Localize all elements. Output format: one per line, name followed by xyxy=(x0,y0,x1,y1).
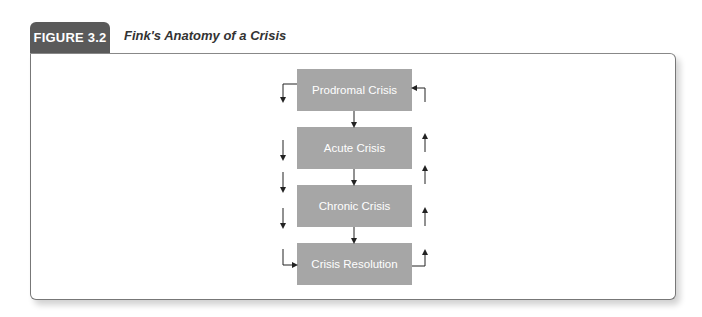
arrow-up-icon xyxy=(412,252,425,266)
arrow-right-icon xyxy=(283,249,295,265)
arrow-down-icon xyxy=(283,84,297,100)
flow-arrows xyxy=(0,0,702,317)
arrow-left-icon xyxy=(414,88,425,102)
